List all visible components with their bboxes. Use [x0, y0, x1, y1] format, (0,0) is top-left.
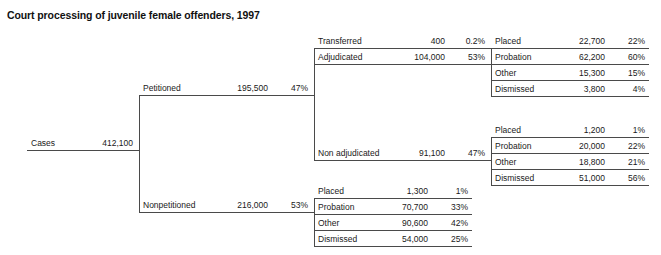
node-nonadj-other-percent: 21% [628, 156, 645, 168]
node-adjudicated: Adjudicated 104,000 53% [314, 50, 491, 65]
node-nonadj-dismissed-label: Dismissed [495, 172, 534, 184]
node-adj-placed-percent: 22% [628, 35, 645, 47]
node-np-probation-value: 70,700 [402, 201, 428, 213]
node-adj-other: Other 15,300 15% [491, 66, 649, 81]
node-adj-probation-percent: 60% [628, 51, 645, 63]
node-np-placed: Placed 1,300 1% [314, 184, 472, 199]
node-adj-dismissed: Dismissed 3,800 4% [491, 82, 649, 97]
connector-root-trunk [139, 95, 140, 213]
node-adj-other-label: Other [495, 67, 516, 79]
node-np-dismissed-label: Dismissed [318, 233, 357, 245]
node-cases: Cases 412,100 [27, 136, 139, 151]
node-np-placed-label: Placed [318, 185, 344, 197]
node-nonadj-dismissed-percent: 56% [628, 172, 645, 184]
node-adj-other-percent: 15% [628, 67, 645, 79]
node-transferred-value: 400 [431, 35, 445, 47]
node-cases-label: Cases [31, 137, 55, 149]
node-nonadj-other: Other 18,800 21% [491, 155, 649, 170]
node-transferred-label: Transferred [318, 35, 362, 47]
node-np-probation-label: Probation [318, 201, 354, 213]
node-np-dismissed: Dismissed 54,000 25% [314, 232, 472, 247]
node-np-dismissed-percent: 25% [451, 233, 468, 245]
node-np-other-value: 90,600 [402, 217, 428, 229]
node-adj-other-value: 15,300 [579, 67, 605, 79]
node-nonadj-probation-value: 20,000 [579, 140, 605, 152]
node-nonpetitioned-value: 216,000 [237, 199, 268, 211]
node-adjudicated-label: Adjudicated [318, 51, 362, 63]
node-np-probation: Probation 70,700 33% [314, 200, 472, 215]
node-nonadj-placed-label: Placed [495, 124, 521, 136]
node-adj-placed-label: Placed [495, 35, 521, 47]
node-nonadj-probation-label: Probation [495, 140, 531, 152]
node-nonadj-dismissed: Dismissed 51,000 56% [491, 171, 649, 186]
node-adjudicated-percent: 53% [468, 51, 485, 63]
node-petitioned-percent: 47% [291, 82, 308, 94]
node-non-adjudicated-percent: 47% [468, 147, 485, 159]
node-transferred-percent: 0.2% [466, 35, 485, 47]
node-np-placed-value: 1,300 [407, 185, 428, 197]
node-nonpetitioned: Nonpetitioned 216,000 53% [139, 198, 314, 213]
node-nonadj-other-label: Other [495, 156, 516, 168]
node-adj-probation-value: 62,200 [579, 51, 605, 63]
node-nonadj-dismissed-value: 51,000 [579, 172, 605, 184]
node-non-adjudicated: Non adjudicated 91,100 47% [314, 146, 491, 161]
node-petitioned-value: 195,500 [237, 82, 268, 94]
node-np-other-label: Other [318, 217, 339, 229]
node-adj-dismissed-value: 3,800 [584, 83, 605, 95]
node-transferred: Transferred 400 0.2% [314, 34, 491, 49]
node-non-adjudicated-label: Non adjudicated [318, 147, 379, 159]
node-adj-dismissed-percent: 4% [633, 83, 645, 95]
diagram-canvas: Court processing of juvenile female offe… [0, 0, 661, 255]
node-nonadj-placed-percent: 1% [633, 124, 645, 136]
node-adj-probation: Probation 62,200 60% [491, 50, 649, 65]
node-nonpetitioned-label: Nonpetitioned [143, 199, 195, 211]
node-non-adjudicated-value: 91,100 [419, 147, 445, 159]
node-petitioned: Petitioned 195,500 47% [139, 81, 314, 96]
node-adjudicated-value: 104,000 [414, 51, 445, 63]
node-np-other: Other 90,600 42% [314, 216, 472, 231]
node-petitioned-label: Petitioned [143, 82, 181, 94]
node-nonadj-placed-value: 1,200 [584, 124, 605, 136]
node-adj-dismissed-label: Dismissed [495, 83, 534, 95]
node-adj-probation-label: Probation [495, 51, 531, 63]
node-nonadj-probation: Probation 20,000 22% [491, 139, 649, 154]
page-title: Court processing of juvenile female offe… [7, 9, 260, 21]
node-adj-placed-value: 22,700 [579, 35, 605, 47]
node-nonadj-probation-percent: 22% [628, 140, 645, 152]
node-adj-placed: Placed 22,700 22% [491, 34, 649, 49]
node-np-dismissed-value: 54,000 [402, 233, 428, 245]
node-nonadj-other-value: 18,800 [579, 156, 605, 168]
node-nonpetitioned-percent: 53% [291, 199, 308, 211]
node-nonadj-placed: Placed 1,200 1% [491, 123, 649, 138]
node-np-placed-percent: 1% [456, 185, 468, 197]
node-np-probation-percent: 33% [451, 201, 468, 213]
node-cases-value: 412,100 [102, 137, 133, 149]
node-np-other-percent: 42% [451, 217, 468, 229]
